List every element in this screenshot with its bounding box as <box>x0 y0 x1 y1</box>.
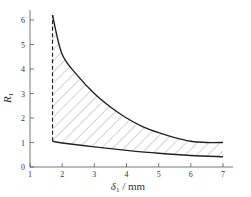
y-tick-label: 1 <box>21 139 25 148</box>
x-tick-label: 6 <box>189 170 193 179</box>
hatched-region <box>53 15 223 157</box>
x-tick-label: 2 <box>60 170 64 179</box>
x-tick-label: 4 <box>125 170 129 179</box>
plot-area <box>53 15 223 157</box>
y-tick-label: 4 <box>21 65 25 74</box>
y-tick-label: 3 <box>21 90 25 99</box>
y-tick-label: 0 <box>21 163 25 172</box>
x-axis-label: δ1 / mm <box>111 180 146 194</box>
y-tick-label: 6 <box>21 16 25 25</box>
y-tick-label: 5 <box>21 41 25 50</box>
x-tick-label: 3 <box>92 170 96 179</box>
x-tick-label: 5 <box>157 170 161 179</box>
y-axis-label: R1 <box>1 92 15 104</box>
y-ticks: 0123456 <box>21 16 34 172</box>
x-tick-label: 1 <box>28 170 32 179</box>
chart: 1234567 0123456 δ1 / mm R1 <box>0 0 251 197</box>
y-tick-label: 2 <box>21 114 25 123</box>
x-ticks: 1234567 <box>28 163 225 179</box>
x-tick-label: 7 <box>221 170 225 179</box>
